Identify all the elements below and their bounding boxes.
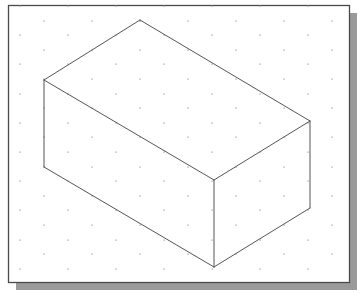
grid-dot [20,269,21,270]
grid-dot [188,196,189,197]
grid-dot [164,181,165,182]
grid-dot [44,225,45,226]
grid-dot [164,269,165,270]
grid-dot [20,64,21,65]
grid-dot [308,6,309,7]
shadow-bottom [16,282,357,290]
grid-dot [140,108,141,109]
grid-dot [44,21,45,22]
grid-dot [20,35,21,36]
grid-dot [332,254,333,255]
drawing-frame [9,6,350,283]
grid-dot [20,152,21,153]
grid-dot [20,181,21,182]
grid-dot [332,108,333,109]
grid-dot [164,152,165,153]
grid-dot [212,210,213,211]
grid-dot [212,269,213,270]
grid-dot [212,152,213,153]
grid-dot [188,50,189,51]
grid-dot [92,225,93,226]
grid-dot [284,79,285,80]
grid-dot [44,50,45,51]
grid-dot [236,225,237,226]
shadow-right [349,13,357,290]
grid-dot [284,108,285,109]
grid-dot [164,64,165,65]
grid-dot [164,240,165,241]
grid-dot [236,137,237,138]
grid-dot [260,123,261,124]
grid-dot [332,50,333,51]
grid-dot [116,152,117,153]
grid-dot [116,269,117,270]
grid-dot [308,240,309,241]
grid-dot [188,167,189,168]
grid-dot [116,64,117,65]
grid-dot [68,6,69,7]
grid-dot [92,167,93,168]
grid-dot [140,79,141,80]
grid-dot [332,79,333,80]
grid-dot [308,35,309,36]
grid-dot [188,21,189,22]
grid-dot [140,50,141,51]
grid-dot [284,21,285,22]
grid-dot [236,50,237,51]
grid-dot [20,210,21,211]
grid-dot [188,108,189,109]
grid-dot [20,6,21,7]
grid-dot [116,240,117,241]
grid-dot [92,79,93,80]
grid-dot [68,210,69,211]
grid-dot [308,269,309,270]
grid-dot [308,181,309,182]
grid-dot [332,137,333,138]
grid-dot [212,35,213,36]
grid-dot [140,196,141,197]
grid-dot [260,6,261,7]
grid-dot [68,240,69,241]
grid-dot [308,64,309,65]
grid-dot [308,94,309,95]
grid-dot [308,152,309,153]
grid-dot [332,196,333,197]
grid-dot [260,64,261,65]
grid-dot [260,181,261,182]
grid-dot [68,152,69,153]
grid-dot [260,35,261,36]
grid-dot [284,167,285,168]
grid-dot [92,137,93,138]
grid-dot [140,225,141,226]
grid-dot [188,137,189,138]
grid-dot [284,196,285,197]
grid-dot [212,64,213,65]
grid-dot [44,254,45,255]
grid-dot [140,254,141,255]
grid-dot [116,6,117,7]
grid-dot [260,240,261,241]
grid-dot [140,167,141,168]
grid-dot [164,94,165,95]
grid-dot [284,254,285,255]
grid-dot [92,254,93,255]
grid-dot [212,123,213,124]
grid-dot [20,240,21,241]
grid-dot [68,123,69,124]
grid-dot [260,269,261,270]
grid-dot [20,123,21,124]
grid-dot [44,196,45,197]
grid-dot [212,181,213,182]
grid-dot [236,79,237,80]
grid-dot [260,94,261,95]
grid-dot [284,50,285,51]
grid-dot [188,254,189,255]
grid-dot [236,21,237,22]
grid-dot [164,123,165,124]
grid-dot [68,35,69,36]
grid-dot [92,21,93,22]
grid-dot [236,108,237,109]
grid-dot [20,94,21,95]
isometric-box-drawing [0,0,361,294]
grid-dot [164,6,165,7]
